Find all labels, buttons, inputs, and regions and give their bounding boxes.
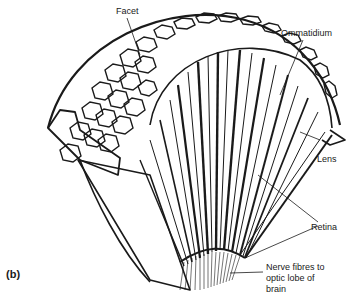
ommatidia-fan: [140, 50, 318, 266]
label-nerve-line1: Nerve fibres to: [266, 262, 325, 273]
label-nerve-line3: brain: [266, 284, 325, 295]
label-facet: Facet: [116, 6, 139, 17]
panel-label: (b): [6, 268, 20, 280]
label-retina: Retina: [311, 222, 337, 233]
label-nerve-fibres: Nerve fibres to optic lobe of brain: [266, 262, 325, 295]
nerve-fibres: [180, 252, 240, 290]
compound-eye-diagram: [0, 0, 358, 304]
label-lens: Lens: [317, 154, 337, 165]
label-ommatidium: Ommatidium: [281, 28, 332, 39]
left-flange: [48, 110, 120, 175]
label-nerve-line2: optic lobe of: [266, 273, 325, 284]
